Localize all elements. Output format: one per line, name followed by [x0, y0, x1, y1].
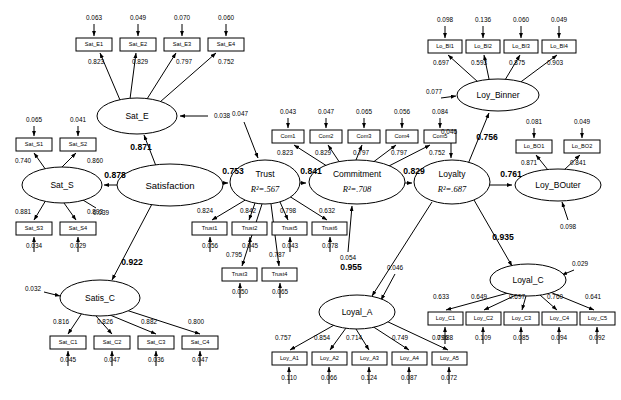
measured-node-sat-s4[interactable]: Sat_S4 — [60, 222, 96, 235]
latent-node-satisfaction[interactable]: Satisfaction — [117, 164, 223, 206]
error-e-com1: 0.043 — [280, 108, 296, 115]
measured-label-loy-a4: Loy_A4 — [400, 355, 419, 361]
measured-node-sat-e4[interactable]: Sat_E4 — [208, 38, 244, 51]
measured-node-loy-c5[interactable]: Loy_C5 — [580, 312, 615, 325]
error-e-loy_a4: 0.087 — [401, 374, 417, 381]
loading-loy_binner-lo_bi1: 0.697 — [433, 59, 449, 66]
latent-label-trust: Trust — [255, 169, 275, 179]
error-e-sat_s: 0.039 — [93, 209, 109, 216]
latent-node-commitment[interactable]: Commitment R²=.708 — [309, 160, 405, 204]
measured-label-loy-a5: Loy_A5 — [440, 355, 459, 361]
measured-node-loy-a1[interactable]: Loy_A1 — [272, 352, 307, 365]
latent-r2-loyalty: R²=.687 — [437, 184, 467, 194]
loading-loyal_a-loy_a2: 0.854 — [314, 334, 330, 341]
measured-label-com3: Com3 — [357, 133, 372, 139]
measured-node-lo-bi2[interactable]: Lo_BI2 — [466, 40, 500, 53]
measured-label-lo-bo2: Lo_BO2 — [572, 143, 593, 149]
measured-node-sat-c2[interactable]: Sat_C2 — [94, 336, 130, 349]
measured-node-loy-a5[interactable]: Loy_A5 — [432, 352, 467, 365]
measured-node-sat-e3[interactable]: Sat_E3 — [164, 38, 200, 51]
measured-node-sat-s1[interactable]: Sat_S1 — [16, 138, 52, 151]
loading-loyal_a-loy_a4: 0.749 — [392, 334, 408, 341]
loading-commitment-com4: 0.797 — [391, 149, 407, 156]
error-e-com4: 0.056 — [394, 108, 410, 115]
error-e-loy_a5: 0.072 — [441, 374, 457, 381]
error-label-layer: 0.0630.0490.0700.0600.0380.0650.0410.034… — [25, 14, 605, 381]
latent-node-loyalty[interactable]: Loyalty R²=.687 — [414, 160, 490, 204]
latent-node-loyal-a[interactable]: Loyal_A — [319, 295, 395, 329]
measured-node-trust6[interactable]: Trust6 — [312, 222, 347, 235]
latent-node-sat-e[interactable]: Sat_E — [97, 98, 177, 134]
measured-node-sat-c1[interactable]: Sat_C1 — [50, 336, 86, 349]
latent-node-loy-bouter[interactable]: Loy_BOuter — [515, 169, 601, 201]
latent-node-loyal-c[interactable]: Loyal_C — [490, 264, 566, 296]
error-e-com2: 0.047 — [318, 108, 334, 115]
measured-node-sat-s2[interactable]: Sat_S2 — [60, 138, 96, 151]
path-coefficient-commitment-to-loyalty: 0.829 — [403, 166, 425, 176]
path-coefficient-satisfaction-to-trust: 0.753 — [222, 166, 244, 176]
measured-label-sat-s1: Sat_S1 — [25, 141, 43, 147]
measured-label-sat-s2: Sat_S2 — [69, 141, 87, 147]
measured-label-trust1: Trust1 — [202, 225, 218, 231]
measured-node-sat-e2[interactable]: Sat_E2 — [120, 38, 156, 51]
latent-node-loy-binner[interactable]: Loy_Binner — [457, 79, 539, 111]
measured-node-loy-c4[interactable]: Loy_C4 — [542, 312, 577, 325]
measured-node-loy-a2[interactable]: Loy_A2 — [312, 352, 347, 365]
measured-node-trust2[interactable]: Trust2 — [232, 222, 267, 235]
error-e-trust2: 0.045 — [242, 242, 258, 249]
latent-node-satis-c[interactable]: Satis_C — [60, 280, 140, 316]
latent-label-sat-s: Sat_S — [50, 180, 73, 190]
error-e-lo_bi3: 0.060 — [513, 16, 529, 23]
measured-node-loy-a4[interactable]: Loy_A4 — [392, 352, 427, 365]
measured-label-trust5: Trust5 — [282, 225, 298, 231]
latent-label-loyalty: Loyalty — [439, 169, 467, 179]
loading-loyal_a-loy_a3: 0.714 — [346, 334, 362, 341]
loading-sat_e-sat_e3: 0.797 — [176, 58, 192, 65]
error-e-loy_c5: 0.092 — [589, 334, 605, 341]
loading-trust-trust3: 0.795 — [226, 251, 242, 258]
measured-node-lo-bo1[interactable]: Lo_BO1 — [516, 140, 552, 153]
measured-node-trust3[interactable]: Trust3 — [222, 268, 257, 281]
path-coefficient-satisfaction-to-sat_e: 0.871 — [130, 142, 152, 152]
measured-node-com2[interactable]: Com2 — [310, 130, 342, 143]
path-coefficient-satisfaction-to-sat_s: 0.878 — [104, 170, 126, 180]
measured-node-lo-bo2[interactable]: Lo_BO2 — [564, 140, 600, 153]
measured-node-loy-c1[interactable]: Loy_C1 — [428, 312, 463, 325]
measured-node-lo-bi3[interactable]: Lo_BI3 — [504, 40, 538, 53]
measured-label-com2: Com2 — [319, 133, 334, 139]
error-e-sat_e2: 0.049 — [130, 14, 146, 21]
error-e-sat_c3: 0.036 — [148, 356, 164, 363]
error-e-trust6: 0.078 — [322, 242, 338, 249]
measured-node-loy-c2[interactable]: Loy_C2 — [466, 312, 501, 325]
measured-node-sat-e1[interactable]: Sat_E1 — [76, 38, 112, 51]
measured-node-trust1[interactable]: Trust1 — [192, 222, 227, 235]
measured-node-loy-c3[interactable]: Loy_C3 — [504, 312, 539, 325]
measured-node-sat-c3[interactable]: Sat_C3 — [138, 336, 174, 349]
measured-node-sat-s3[interactable]: Sat_S3 — [16, 222, 52, 235]
measured-node-loy-a3[interactable]: Loy_A3 — [352, 352, 387, 365]
error-e-sat_s4: 0.029 — [70, 242, 86, 249]
error-e-loyalty: 0.046 — [441, 128, 457, 135]
latent-node-sat-s[interactable]: Sat_S — [22, 167, 102, 203]
error-e-trust5: 0.043 — [282, 242, 298, 249]
measured-node-trust5[interactable]: Trust5 — [272, 222, 307, 235]
measured-node-com1[interactable]: Com1 — [272, 130, 304, 143]
loading-commitment-com1: 0.823 — [277, 149, 293, 156]
loading-commitment-com3: 0.797 — [353, 149, 369, 156]
loading-satis_c-sat_c4: 0.800 — [188, 318, 204, 325]
measured-node-com3[interactable]: Com3 — [348, 130, 380, 143]
loading-sat_e-sat_e1: 0.823 — [88, 58, 104, 65]
edge-layer — [34, 24, 597, 384]
loading-loyal_c-loy_c1: 0.633 — [433, 293, 449, 300]
latent-label-loy-bouter: Loy_BOuter — [535, 180, 581, 190]
measured-node-lo-bi1[interactable]: Lo_BI1 — [428, 40, 462, 53]
measured-node-trust4[interactable]: Trust4 — [262, 268, 297, 281]
measured-label-loy-a3: Loy_A3 — [360, 355, 379, 361]
measured-node-sat-c4[interactable]: Sat_C4 — [182, 336, 218, 349]
measured-label-sat-e1: Sat_E1 — [85, 41, 103, 47]
loading-commitment-com5: 0.752 — [429, 149, 445, 156]
measured-node-com4[interactable]: Com4 — [386, 130, 418, 143]
latent-label-satis-c: Satis_C — [85, 293, 115, 303]
measured-node-lo-bi4[interactable]: Lo_BI4 — [542, 40, 576, 53]
latent-label-loy-binner: Loy_Binner — [476, 90, 519, 100]
